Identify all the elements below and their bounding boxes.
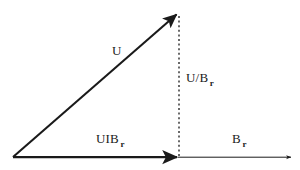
label-axis-subscript: r — [241, 139, 247, 149]
vector-diagram — [0, 0, 300, 170]
label-hypotenuse-subscript — [122, 51, 124, 61]
label-vertical-component-base: U/B — [186, 70, 208, 85]
label-hypotenuse: U — [112, 44, 123, 61]
label-hypotenuse-base: U — [112, 43, 122, 58]
diagram-canvas: U U/Br UIBr Br — [0, 0, 300, 170]
label-axis: Br — [232, 132, 246, 149]
label-horizontal-component-base: UIB — [96, 131, 119, 146]
label-vertical-component-subscript: r — [208, 78, 214, 88]
label-axis-base: B — [232, 131, 241, 146]
label-vertical-component: U/Br — [186, 71, 214, 88]
label-horizontal-component-subscript: r — [119, 139, 125, 149]
hypotenuse-vector-arrow — [13, 15, 177, 158]
label-horizontal-component: UIBr — [96, 132, 125, 149]
